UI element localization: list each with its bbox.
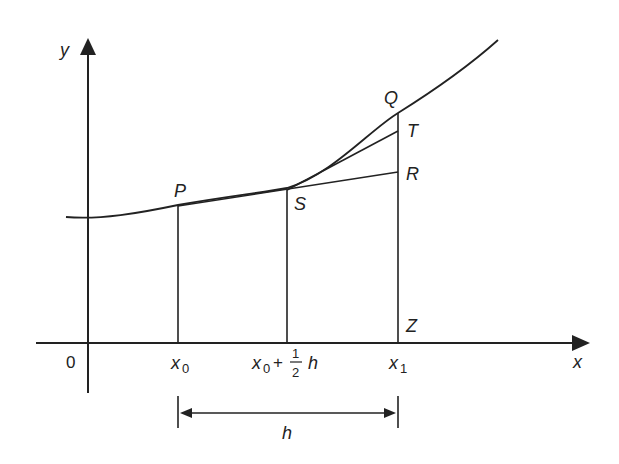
diagram-canvas: y x 0 P S Q T R Z x 0 x 0 + 1 2 h x 1 h bbox=[0, 0, 619, 464]
tick-x1: x 1 bbox=[388, 353, 407, 376]
origin-label: 0 bbox=[66, 353, 75, 372]
point-P-label: P bbox=[174, 181, 186, 201]
svg-text:2: 2 bbox=[292, 365, 299, 380]
point-Z-label: Z bbox=[405, 316, 418, 336]
point-R-label: R bbox=[406, 164, 419, 184]
x-axis-arrow-icon bbox=[572, 335, 590, 351]
x-axis-label: x bbox=[572, 352, 583, 372]
svg-text:x: x bbox=[388, 353, 399, 373]
x-axis bbox=[36, 335, 590, 351]
svg-text:x: x bbox=[251, 353, 262, 373]
diagram-svg: y x 0 P S Q T R Z x 0 x 0 + 1 2 h x 1 h bbox=[0, 0, 619, 464]
arrow-left-icon bbox=[180, 408, 192, 418]
tick-x0: x 0 bbox=[170, 353, 189, 376]
point-S-label: S bbox=[294, 194, 306, 214]
svg-text:0: 0 bbox=[263, 361, 270, 376]
point-Q-label: Q bbox=[384, 88, 398, 108]
svg-text:h: h bbox=[308, 353, 318, 373]
tick-midpoint: x 0 + 1 2 h bbox=[251, 346, 318, 380]
y-axis-label: y bbox=[58, 40, 70, 60]
point-T-label: T bbox=[407, 121, 420, 141]
y-axis-arrow-icon bbox=[80, 38, 96, 55]
svg-text:0: 0 bbox=[182, 361, 189, 376]
interval-h-label: h bbox=[282, 423, 292, 443]
svg-text:1: 1 bbox=[400, 361, 407, 376]
svg-text:x: x bbox=[170, 353, 181, 373]
svg-text:1: 1 bbox=[292, 346, 299, 361]
svg-text:+: + bbox=[273, 353, 283, 372]
function-curve bbox=[66, 40, 498, 218]
y-axis bbox=[80, 38, 96, 393]
arrow-right-icon bbox=[384, 408, 396, 418]
